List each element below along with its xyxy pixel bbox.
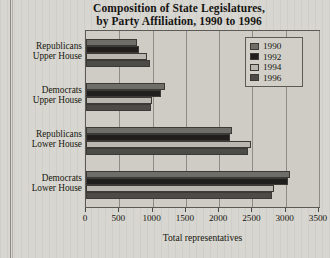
x-tick-label-3000: 3000: [276, 213, 294, 223]
x-tick-1500: [185, 208, 186, 212]
x-tick-1000: [152, 208, 153, 212]
y-axis-label-line: Upper House: [0, 51, 82, 61]
y-axis-label-3: DemocratsLower House: [0, 173, 82, 194]
x-tick-2500: [251, 208, 252, 212]
x-tick-label-2000: 2000: [209, 213, 227, 223]
x-tick-label-2500: 2500: [242, 213, 260, 223]
bar-1996: [86, 148, 248, 155]
bar-1994: [86, 185, 274, 192]
y-axis-label-0: RepublicansUpper House: [0, 41, 82, 62]
bar-1992: [86, 46, 139, 53]
x-tick-label-3500: 3500: [309, 213, 327, 223]
gridline-3500: [319, 31, 320, 207]
bar-1996: [86, 192, 272, 199]
y-axis-label-2: RepublicansLower House: [0, 129, 82, 150]
bar-1992: [86, 134, 230, 141]
x-tick-3500: [318, 208, 319, 212]
y-axis-label-line: Democrats: [0, 173, 82, 183]
bar-1994: [86, 53, 147, 60]
x-tick-500: [118, 208, 119, 212]
chart-title-line-2: by Party Affiliation, 1990 to 1996: [34, 15, 324, 28]
x-tick-3000: [285, 208, 286, 212]
legend-label: 1992: [263, 52, 281, 62]
bar-group: [86, 163, 319, 207]
legend-item-1990[interactable]: 1990: [250, 41, 299, 51]
bar-1990: [86, 127, 232, 134]
bar-1992: [86, 178, 288, 185]
y-axis-label-line: Republicans: [0, 129, 82, 139]
x-tick-2000: [218, 208, 219, 212]
bar-1994: [86, 97, 152, 104]
y-axis-category-labels: RepublicansUpper HouseDemocratsUpper Hou…: [0, 30, 82, 208]
y-axis-label-1: DemocratsUpper House: [0, 85, 82, 106]
bar-1996: [86, 104, 151, 111]
legend-item-1992[interactable]: 1992: [250, 52, 299, 62]
bar-1990: [86, 171, 290, 178]
legend-swatch-icon: [250, 43, 259, 50]
x-tick-label-1500: 1500: [176, 213, 194, 223]
bar-group: [86, 119, 319, 163]
legend-swatch-icon: [250, 53, 259, 60]
x-tick-label-500: 500: [111, 213, 125, 223]
y-axis-label-line: Republicans: [0, 41, 82, 51]
chart-legend: 1990199219941996: [245, 37, 303, 87]
legend-swatch-icon: [250, 64, 259, 71]
page-background: Composition of State Legislatures, by Pa…: [0, 0, 330, 258]
x-axis-tick-labels: 0500100015002000250030003500: [0, 213, 330, 227]
chart-title-line-1: Composition of State Legislatures,: [34, 2, 324, 15]
legend-swatch-icon: [250, 74, 259, 81]
legend-label: 1990: [263, 41, 281, 51]
bar-1990: [86, 83, 165, 90]
legend-label: 1996: [263, 73, 281, 83]
legend-item-1994[interactable]: 1994: [250, 62, 299, 72]
bar-1996: [86, 60, 150, 67]
y-axis-label-line: Democrats: [0, 85, 82, 95]
legend-label: 1994: [263, 62, 281, 72]
y-axis-label-line: Upper House: [0, 95, 82, 105]
x-axis-title: Total representatives: [85, 232, 320, 243]
bar-1990: [86, 39, 137, 46]
x-tick-label-0: 0: [83, 213, 88, 223]
bar-1994: [86, 141, 251, 148]
x-tick-0: [85, 208, 86, 212]
y-axis-label-line: Lower House: [0, 139, 82, 149]
legend-item-1996[interactable]: 1996: [250, 73, 299, 83]
x-tick-label-1000: 1000: [142, 213, 160, 223]
chart-title: Composition of State Legislatures, by Pa…: [34, 2, 324, 27]
bar-1992: [86, 90, 161, 97]
y-axis-label-line: Lower House: [0, 183, 82, 193]
